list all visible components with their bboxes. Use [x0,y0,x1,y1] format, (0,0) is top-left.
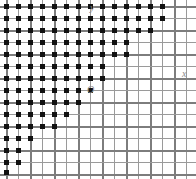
lattice-point [76,4,81,9]
lattice-point [64,52,69,57]
lattice-point [4,136,9,141]
lattice-point [52,52,57,57]
lattice-point [16,4,21,9]
lattice-point [112,52,117,57]
lattice-point [88,64,93,69]
lattice-point [64,40,69,45]
lattice-point [112,28,117,33]
lattice-point [148,28,153,33]
lattice-point-region-diagram: y x O [0,0,196,179]
lattice-point [40,28,45,33]
lattice-point [64,100,69,105]
lattice-point [28,4,33,9]
lattice-point [40,40,45,45]
lattice-point [136,28,141,33]
lattice-point [52,100,57,105]
lattice-point [4,170,9,175]
lattice-point [28,124,33,129]
lattice-point [52,16,57,21]
lattice-point [76,40,81,45]
lattice-point [76,88,81,93]
lattice-point [4,160,9,165]
lattice-point [4,148,9,153]
lattice-point [136,16,141,21]
lattice-point [16,136,21,141]
lattice-point [40,112,45,117]
lattice-point [28,136,33,141]
lattice-point [112,4,117,9]
lattice-point [64,76,69,81]
lattice-point [52,28,57,33]
lattice-point [52,40,57,45]
lattice-point [4,124,9,129]
lattice-point [28,76,33,81]
lattice-point [28,112,33,117]
lattice-point [16,100,21,105]
lattice-point [4,112,9,117]
lattice-point [16,148,21,153]
lattice-point [112,16,117,21]
lattice-point [16,28,21,33]
lattice-point [28,52,33,57]
lattice-point [160,4,165,9]
lattice-point [40,100,45,105]
lattice-point [100,16,105,21]
lattice-point [52,124,57,129]
lattice-point [124,40,129,45]
lattice-point [16,160,21,165]
lattice-point [40,64,45,69]
lattice-point [64,112,69,117]
lattice-point [4,40,9,45]
origin-label: O [87,85,94,95]
lattice-point [4,64,9,69]
lattice-point [76,64,81,69]
lattice-point [88,76,93,81]
y-axis-label: y [90,3,94,13]
lattice-point [64,16,69,21]
lattice-point [16,76,21,81]
lattice-point [76,52,81,57]
lattice-point [100,76,105,81]
lattice-point [52,76,57,81]
lattice-point [16,88,21,93]
lattice-point [28,16,33,21]
lattice-point [64,64,69,69]
lattice-point [100,4,105,9]
lattice-point [4,88,9,93]
lattice-point [76,16,81,21]
lattice-point [124,28,129,33]
x-axis-label: x [182,69,186,79]
lattice-point [16,112,21,117]
lattice-point [100,52,105,57]
lattice-point [100,40,105,45]
lattice-point [100,64,105,69]
lattice-point [16,16,21,21]
lattice-point [40,88,45,93]
lattice-point-layer [0,0,196,179]
lattice-point [52,64,57,69]
lattice-point [76,28,81,33]
lattice-point [4,76,9,81]
lattice-point [40,16,45,21]
lattice-point [28,100,33,105]
lattice-point [136,4,141,9]
lattice-point [52,88,57,93]
lattice-point [64,28,69,33]
lattice-point [88,52,93,57]
lattice-point [52,4,57,9]
lattice-point [16,124,21,129]
lattice-point [28,64,33,69]
lattice-point [28,40,33,45]
lattice-point [88,28,93,33]
lattice-point [4,100,9,105]
lattice-point [40,124,45,129]
lattice-point [16,52,21,57]
lattice-point [52,112,57,117]
lattice-point [64,88,69,93]
lattice-point [100,28,105,33]
lattice-point [4,16,9,21]
lattice-point [40,4,45,9]
lattice-point [76,100,81,105]
lattice-point [148,16,153,21]
lattice-point [4,4,9,9]
